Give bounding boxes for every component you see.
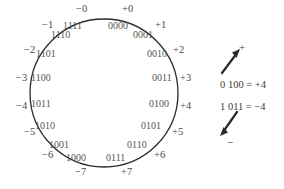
wheel-binary-label: 1100 [31, 73, 51, 83]
wheel-decimal-label: −5 [24, 127, 35, 138]
wheel-binary-label: 1101 [36, 49, 56, 59]
wheel-decimal-label: −2 [24, 45, 35, 56]
wheel-decimal-label: +3 [180, 73, 191, 84]
wheel-decimal-label: +6 [154, 150, 165, 161]
wheel-decimal-label: +2 [173, 45, 184, 56]
wheel-binary-label: 1001 [49, 140, 69, 150]
wheel-binary-label: 1000 [66, 153, 86, 163]
wheel-binary-label: 0001 [133, 30, 153, 40]
wheel-decimal-label: −3 [16, 73, 27, 84]
wheel-decimal-label: −0 [76, 4, 87, 15]
wheel-decimal-label: +5 [172, 127, 183, 138]
wheel-binary-label: 0000 [108, 21, 128, 31]
negative-sign-label: − [227, 137, 233, 148]
wheel-binary-label: 1011 [31, 99, 51, 109]
wheel-decimal-label: +7 [121, 167, 132, 178]
wheel-binary-label: 0011 [152, 73, 172, 83]
wheel-decimal-label: +0 [122, 4, 133, 15]
negative-direction-arrow [220, 112, 237, 136]
positive-sign-label: + [239, 42, 245, 53]
wheel-binary-label: 1110 [51, 30, 70, 40]
wheel-binary-label: 0010 [147, 49, 167, 59]
wheel-binary-label: 0100 [149, 99, 169, 109]
wheel-binary-label: 0101 [141, 121, 161, 131]
wheel-decimal-label: −6 [42, 150, 53, 161]
positive-arrow-shaft [222, 53, 237, 73]
equation-negative: 1 011 = −4 [220, 102, 266, 113]
wheel-decimal-label: −4 [16, 101, 27, 112]
figure-canvas: +00000+10001+20010+30011+40100+50101+601… [0, 0, 284, 189]
wheel-binary-label: 0111 [106, 153, 125, 163]
wheel-decimal-label: +4 [180, 101, 191, 112]
equation-positive: 0 100 = +4 [220, 80, 266, 91]
wheel-decimal-label: +1 [155, 20, 166, 31]
wheel-binary-label: 1111 [63, 21, 82, 31]
wheel-decimal-label: −7 [75, 167, 86, 178]
wheel-binary-label: 0110 [127, 140, 147, 150]
wheel-binary-label: 1010 [35, 121, 55, 131]
positive-direction-arrow [222, 49, 240, 73]
